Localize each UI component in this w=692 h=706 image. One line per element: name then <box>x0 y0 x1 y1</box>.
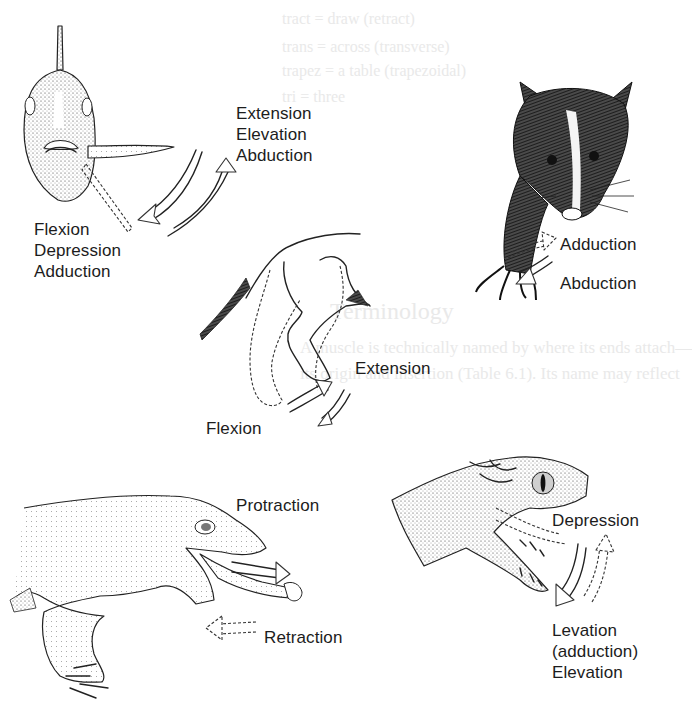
fish-labels-upper: Extension Elevation Abduction <box>236 103 313 166</box>
label-elevation: Elevation <box>236 124 313 145</box>
snake-labels-lower: Levation (adduction) Elevation <box>552 620 638 683</box>
label-depression: Depression <box>34 240 121 261</box>
shrew-label-adduction: Adduction <box>560 234 637 255</box>
label-extension: Extension <box>236 103 313 124</box>
hindlimb-label-flexion: Flexion <box>206 418 262 439</box>
label-abduction: Abduction <box>236 145 313 166</box>
label-adduction: Adduction <box>34 261 121 282</box>
shrew-illustration <box>476 82 634 300</box>
snake-label-depression: Depression <box>552 510 639 531</box>
snake-illustration <box>392 457 614 606</box>
hindlimb-label-extension: Extension <box>355 358 431 379</box>
label-adduction-paren: (adduction) <box>552 641 638 662</box>
lizard-illustration <box>10 496 302 699</box>
label-flexion: Flexion <box>34 219 121 240</box>
fish-illustration <box>24 26 236 236</box>
lizard-label-retraction: Retraction <box>264 627 342 648</box>
label-levation: Levation <box>552 620 638 641</box>
shrew-label-abduction: Abduction <box>560 273 637 294</box>
label-elevation-snake: Elevation <box>552 662 638 683</box>
fish-labels-lower: Flexion Depression Adduction <box>34 219 121 282</box>
hindlimb-illustration <box>200 234 370 427</box>
lizard-label-protraction: Protraction <box>236 495 319 516</box>
